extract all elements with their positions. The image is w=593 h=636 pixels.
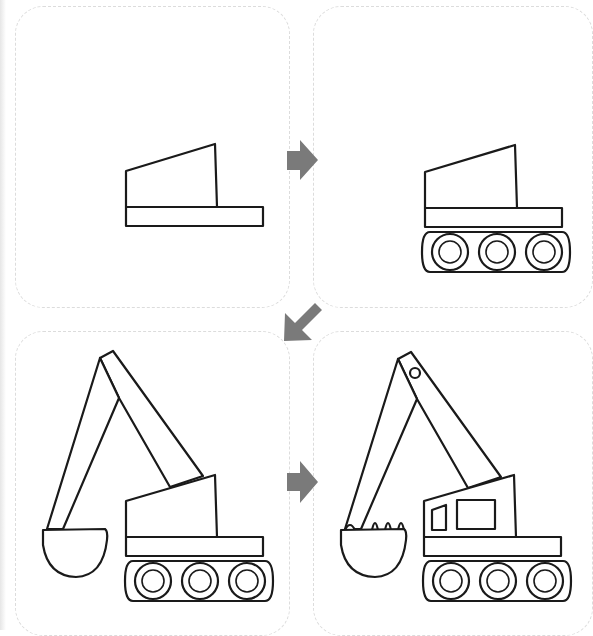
crawler-tracks — [422, 232, 570, 272]
step-4-drawing — [341, 352, 571, 601]
cab-shape — [425, 145, 517, 208]
arrow-down-left-icon — [284, 303, 322, 341]
arrow-right-icon — [287, 461, 318, 503]
crawler-tracks — [423, 561, 571, 601]
cab-shape — [126, 144, 217, 207]
crawler-tracks — [125, 561, 273, 601]
base-platform — [126, 207, 263, 226]
arrow-right-icon — [287, 140, 318, 180]
stick-arm — [47, 358, 119, 529]
base-platform — [126, 537, 263, 556]
step-3-drawing — [43, 351, 273, 601]
bucket — [43, 529, 107, 577]
bucket — [341, 529, 406, 577]
pivot-pin — [410, 368, 420, 378]
base-platform — [424, 537, 561, 556]
step-2-drawing — [422, 145, 570, 272]
step-1-drawing — [126, 144, 263, 226]
base-platform — [425, 208, 562, 227]
boom-arm — [100, 351, 203, 487]
stick-arm — [345, 359, 417, 529]
